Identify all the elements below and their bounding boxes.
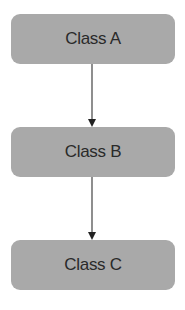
edge-a-to-b	[88, 64, 96, 127]
node-label: Class C	[64, 255, 121, 275]
node-label: Class B	[65, 142, 121, 162]
node-class-b: Class B	[11, 127, 175, 177]
node-class-c: Class C	[11, 240, 175, 290]
arrowhead-icon	[88, 232, 96, 240]
node-label: Class A	[65, 29, 121, 49]
edge-b-to-c	[88, 177, 96, 240]
arrowhead-icon	[88, 119, 96, 127]
node-class-a: Class A	[11, 14, 175, 64]
